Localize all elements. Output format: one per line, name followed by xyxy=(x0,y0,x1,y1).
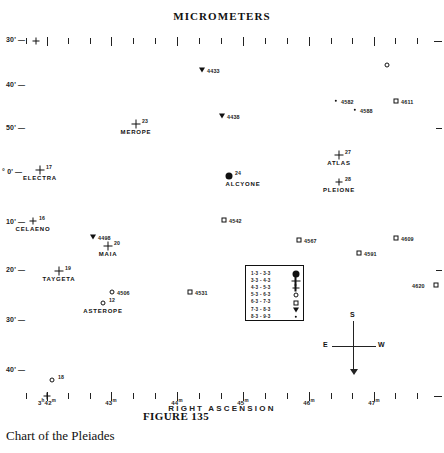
axis-tick-minor xyxy=(68,38,69,44)
dec-tick-label: 20' — xyxy=(6,266,25,273)
star-catalog-number: 4620 xyxy=(412,283,425,289)
legend-symbol xyxy=(291,278,300,285)
compass-label-east: E xyxy=(323,341,328,348)
star-proper-name: CELAENO xyxy=(16,226,51,232)
star-marker-cross xyxy=(55,267,64,276)
star-marker-open-square xyxy=(394,236,399,241)
star-proper-name: MAIA xyxy=(99,251,118,257)
star-catalog-number: 4438 xyxy=(227,114,240,120)
dec-tick-label: 10' — xyxy=(6,218,25,225)
star-proper-name: ALCYONE xyxy=(226,181,261,187)
star-flamsteed-number: 23 xyxy=(142,118,148,124)
axis-tick-minor xyxy=(133,38,134,44)
star-catalog-number: 4506 xyxy=(117,290,130,296)
pleiades-star-chart: MICROMETERS 30' —40' —50' —° 0' —10' —20… xyxy=(0,0,444,453)
legend-row: 4·3 - 5·3 xyxy=(251,285,301,292)
star-marker-dot xyxy=(354,109,356,111)
star-marker-open-square xyxy=(357,251,362,256)
axis-tick-minor xyxy=(331,393,332,399)
compass-label-south: S xyxy=(350,311,355,318)
star-flamsteed-number: 12 xyxy=(109,297,115,303)
star-marker-small-cross xyxy=(292,285,299,292)
star-marker-open-square xyxy=(297,238,302,243)
star-proper-name: MEROPE xyxy=(121,129,152,135)
dec-tick-label: 30' — xyxy=(6,316,25,323)
dec-tick-label: 30' — xyxy=(6,36,25,43)
compass-label-west: W xyxy=(378,341,385,348)
legend-row: 3·3 - 4·3 xyxy=(251,278,301,285)
star-flamsteed-number: 20 xyxy=(114,240,120,246)
star-flamsteed-number: 16 xyxy=(39,215,45,221)
axis-edge-mark xyxy=(436,270,442,271)
figure-caption: Chart of the Pleiades xyxy=(6,428,115,444)
axis-tick-minor xyxy=(90,38,91,44)
star-catalog-number: 4498 xyxy=(98,235,111,241)
star-marker-triangle xyxy=(219,114,225,119)
star-flamsteed-number: 18 xyxy=(58,374,64,380)
axis-tick-minor xyxy=(133,393,134,399)
axis-tick-minor xyxy=(199,393,200,399)
star-marker-small-cross xyxy=(30,218,37,225)
legend-magnitude-range: 4·3 - 5·3 xyxy=(251,285,271,290)
star-marker-open-circle xyxy=(293,293,298,298)
star-marker-open-square xyxy=(394,99,399,104)
star-catalog-number: 4588 xyxy=(360,108,373,114)
axis-tick-minor xyxy=(265,38,266,44)
star-marker-dot xyxy=(294,316,296,318)
axis-tick-major xyxy=(374,37,375,46)
star-marker-open-circle xyxy=(50,378,55,383)
star-proper-name: ELECTRA xyxy=(23,175,57,181)
axis-tick-minor xyxy=(265,393,266,399)
dec-tick-label: 40' — xyxy=(6,366,25,373)
star-marker-filled-disc xyxy=(226,173,233,180)
axis-tick-minor xyxy=(221,393,222,399)
dec-tick-label: 50' — xyxy=(6,124,25,131)
axis-tick-major xyxy=(47,37,48,46)
chart-top-title: MICROMETERS xyxy=(0,10,444,22)
legend-row: 8·3 - 9·3 xyxy=(251,314,301,321)
star-marker-open-square xyxy=(222,218,227,223)
axis-tick-minor xyxy=(199,38,200,44)
star-catalog-number: 4542 xyxy=(229,218,242,224)
star-catalog-number: 4433 xyxy=(207,68,220,74)
legend-magnitude-range: 7·3 - 8·3 xyxy=(251,307,271,312)
star-marker-open-square xyxy=(434,283,439,288)
star-proper-name: ASTEROPE xyxy=(83,308,122,314)
axis-tick-minor xyxy=(352,38,353,44)
legend-symbol xyxy=(291,292,300,299)
legend-symbol xyxy=(291,285,300,292)
axis-tick-minor xyxy=(155,38,156,44)
axis-tick-minor xyxy=(287,393,288,399)
axis-tick-major xyxy=(309,37,310,46)
axis-tick-minor xyxy=(68,393,69,399)
magnitude-legend: 1·3 - 3·33·3 - 4·34·3 - 5·35·3 - 6·36·3 … xyxy=(245,265,304,321)
axis-edge-mark xyxy=(434,396,442,397)
compass-horizontal-axis xyxy=(332,346,376,347)
star-marker-cross xyxy=(104,242,113,251)
star-marker-dot xyxy=(335,100,337,102)
star-catalog-number: 4611 xyxy=(401,99,414,105)
star-flamsteed-number: 27 xyxy=(345,149,351,155)
axis-origin-cross xyxy=(33,38,40,45)
star-proper-name: PLEIONE xyxy=(323,187,355,193)
axis-edge-mark xyxy=(436,128,442,129)
star-marker-triangle xyxy=(90,235,96,240)
axis-tick-major xyxy=(243,37,244,46)
star-marker-cross xyxy=(36,166,45,175)
axis-tick-minor xyxy=(26,38,27,44)
star-marker-open-circle xyxy=(385,63,390,68)
star-flamsteed-number: 19 xyxy=(65,265,71,271)
star-flamsteed-number: 17 xyxy=(46,164,52,170)
star-marker-small-cross xyxy=(336,179,343,186)
star-marker-triangle xyxy=(293,307,299,312)
compass-arrow-icon xyxy=(350,369,358,375)
star-flamsteed-number: 28 xyxy=(345,176,351,182)
legend-row: 7·3 - 8·3 xyxy=(251,307,301,314)
star-marker-triangle xyxy=(199,68,205,73)
axis-tick-minor xyxy=(395,38,396,44)
axis-tick-minor xyxy=(26,393,27,399)
axis-tick-minor xyxy=(417,38,418,44)
x-axis-title: RIGHT ASCENSION xyxy=(0,404,444,413)
legend-magnitude-range: 3·3 - 4·3 xyxy=(251,278,271,283)
axis-tick-major xyxy=(177,37,178,46)
